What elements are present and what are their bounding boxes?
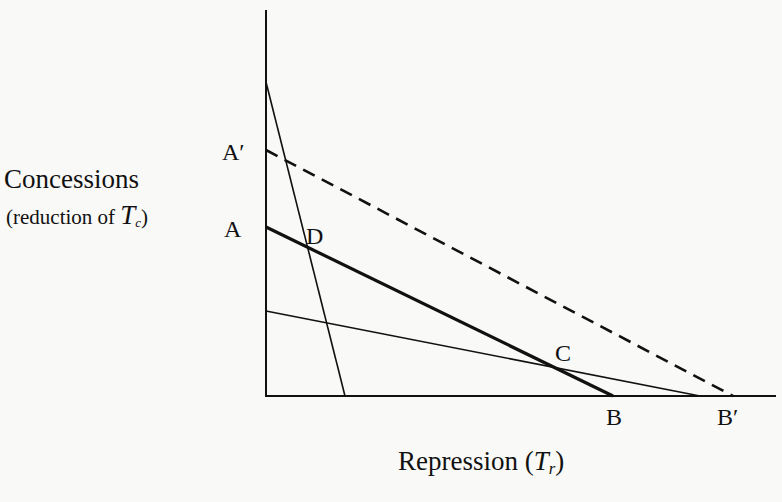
point-label-a-prime: A′ [222, 140, 245, 164]
diagram-canvas [0, 0, 782, 502]
y-axis-sublabel: (reduction of Tc) [6, 200, 148, 231]
x-label-suffix: ) [555, 446, 564, 476]
point-label-c: C [555, 341, 571, 365]
point-label-b: B [606, 405, 622, 429]
x-label-var: T [534, 446, 549, 476]
shallow-line [266, 311, 700, 396]
point-label-a: A [224, 217, 241, 241]
x-axis-label: Repression (Tr) [398, 446, 564, 479]
y-axis-label: Concessions [4, 164, 139, 195]
y-sublabel-prefix: (reduction of [6, 205, 120, 229]
y-sublabel-var: T [120, 200, 135, 230]
point-label-b-prime: B′ [717, 405, 738, 429]
thick-line-a-b [266, 227, 613, 396]
point-label-d: D [306, 224, 323, 248]
y-sublabel-suffix: ) [141, 205, 148, 229]
x-label-prefix: Repression ( [398, 446, 534, 476]
